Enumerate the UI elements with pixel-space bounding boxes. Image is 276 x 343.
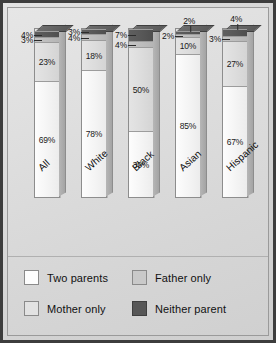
segment-mother-only-hispanic[interactable]: 27%: [223, 41, 247, 86]
legend-item-mother-only[interactable]: Mother only: [24, 301, 132, 316]
two-parents-swatch: [24, 270, 39, 285]
legend-label-father-only: Father only: [155, 272, 211, 284]
segment-two-parents-asian[interactable]: 85%: [176, 54, 200, 197]
stacked-bar-hispanic[interactable]: 67% 27% 3% 4%: [222, 28, 248, 198]
value-label-neither-parent-asian: 2%: [183, 16, 195, 26]
value-label-neither-parent-hispanic: 4%: [230, 14, 242, 24]
value-label-two-parents-asian: 85%: [180, 121, 196, 131]
legend-item-neither-parent[interactable]: Neither parent: [132, 301, 260, 316]
stacked-bar-black[interactable]: 39% 50% 4% 7%: [128, 28, 154, 198]
value-label-neither-parent-white: 3%: [68, 27, 80, 37]
segment-mother-only-all[interactable]: 23%: [35, 42, 59, 81]
legend-label-two-parents: Two parents: [47, 272, 108, 284]
segment-two-parents-hispanic[interactable]: 67%: [223, 86, 247, 197]
bar-group-asian: 85% 10% 2% 2% Asian: [175, 28, 209, 198]
segment-mother-only-asian[interactable]: 10%: [176, 37, 200, 54]
value-label-two-parents-all: 69%: [39, 135, 55, 145]
neither-parent-swatch: [132, 301, 147, 316]
chart-legend: Two parents Father only Mother only Neit…: [24, 270, 260, 316]
segment-neither-parent-all[interactable]: 4%: [35, 31, 59, 38]
value-label-mother-only-black: 50%: [133, 85, 149, 95]
bar-group-black: 39% 50% 4% 7% Black: [128, 28, 162, 198]
stacked-bar-white[interactable]: 78% 18% 4% 3%: [81, 28, 107, 198]
segment-neither-parent-asian[interactable]: 2%: [176, 31, 200, 34]
segment-father-only-all[interactable]: 3%: [35, 37, 59, 42]
segment-two-parents-white[interactable]: 78%: [82, 70, 106, 197]
legend-label-mother-only: Mother only: [47, 303, 106, 315]
value-label-father-only-hispanic: 3%: [209, 34, 221, 44]
bar-side-face-all: [58, 24, 66, 197]
segment-father-only-white[interactable]: 4%: [82, 34, 106, 41]
value-label-two-parents-white: 78%: [86, 129, 102, 139]
legend-divider: [8, 256, 268, 257]
stacked-bar-asian[interactable]: 85% 10% 2% 2%: [175, 28, 201, 198]
value-label-two-parents-hispanic: 67%: [227, 137, 243, 147]
father-only-swatch: [132, 270, 147, 285]
segment-mother-only-black[interactable]: 50%: [129, 47, 153, 131]
bar-side-face-hispanic: [246, 24, 254, 197]
segment-father-only-black[interactable]: 4%: [129, 41, 153, 48]
legend-item-two-parents[interactable]: Two parents: [24, 270, 132, 285]
chart-inner-panel: 69% 23% 3% 4% All: [7, 7, 269, 336]
value-label-neither-parent-all: 4%: [21, 30, 33, 40]
segment-father-only-asian[interactable]: 2%: [176, 34, 200, 37]
segment-mother-only-white[interactable]: 18%: [82, 40, 106, 69]
bar-group-all: 69% 23% 3% 4% All: [34, 28, 68, 198]
bar-group-hispanic: 67% 27% 3% 4% Hispanic: [222, 28, 256, 198]
value-label-father-only-asian: 2%: [162, 31, 174, 41]
segment-neither-parent-black[interactable]: 7%: [129, 29, 153, 41]
plot-area: 69% 23% 3% 4% All: [8, 8, 268, 256]
value-label-father-only-black: 4%: [115, 40, 127, 50]
segment-two-parents-all[interactable]: 69%: [35, 81, 59, 197]
value-label-mother-only-hispanic: 27%: [227, 59, 243, 69]
stacked-bar-all[interactable]: 69% 23% 3% 4%: [34, 28, 60, 198]
chart-frame: 69% 23% 3% 4% All: [0, 0, 276, 343]
bar-side-face-black: [152, 24, 160, 197]
bar-side-face-asian: [199, 24, 207, 197]
mother-only-swatch: [24, 301, 39, 316]
value-label-mother-only-asian: 10%: [180, 41, 196, 51]
value-label-neither-parent-black: 7%: [115, 30, 127, 40]
legend-label-neither-parent: Neither parent: [155, 303, 226, 315]
segment-neither-parent-white[interactable]: 3%: [82, 29, 106, 34]
segment-father-only-hispanic[interactable]: 3%: [223, 36, 247, 41]
value-label-mother-only-all: 23%: [39, 57, 55, 67]
bar-group-white: 78% 18% 4% 3% White: [81, 28, 115, 198]
bar-side-face-white: [105, 24, 113, 197]
segment-neither-parent-hispanic[interactable]: 4%: [223, 29, 247, 36]
legend-item-father-only[interactable]: Father only: [132, 270, 260, 285]
value-label-mother-only-white: 18%: [86, 51, 102, 61]
